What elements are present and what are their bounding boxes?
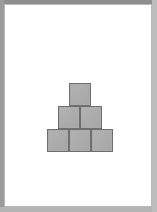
block-pyramid-figure: [5, 5, 152, 207]
page-surface: [4, 4, 152, 207]
block-bottom-right: [91, 129, 113, 152]
block-bottom-center: [69, 129, 91, 152]
block-middle-left: [58, 106, 80, 129]
frame-bottom-edge: [0, 207, 157, 212]
block-middle-right: [80, 106, 102, 129]
screenshot-root: [0, 0, 157, 212]
block-top-center: [69, 83, 91, 106]
frame-right-edge: [152, 0, 157, 212]
block-bottom-left: [47, 129, 69, 152]
